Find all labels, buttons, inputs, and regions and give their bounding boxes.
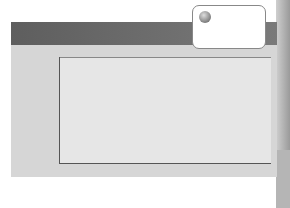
go-online-logo [198, 7, 212, 27]
y-axis [59, 57, 60, 164]
globe-icon [199, 11, 211, 23]
page-edge-shade [276, 150, 290, 208]
x-axis [59, 163, 271, 164]
plot-area [60, 57, 271, 164]
